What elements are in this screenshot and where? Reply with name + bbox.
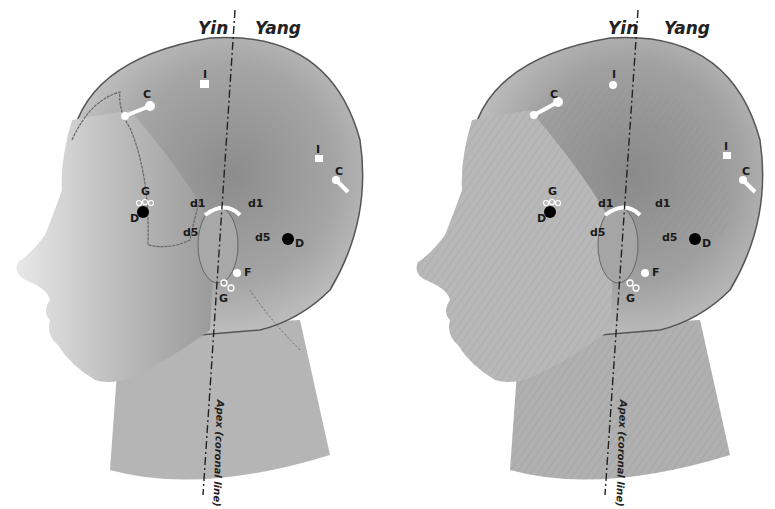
- point-D-back-label: D: [702, 237, 711, 250]
- point-C-back-label: C: [335, 165, 343, 178]
- point-D-temple-label: D: [130, 212, 139, 225]
- point-F-label: F: [652, 266, 660, 279]
- yin-label: Yin: [198, 18, 228, 38]
- point-I-top-marker: [200, 80, 209, 88]
- yang-label: Yang: [255, 18, 301, 38]
- point-d5-front-label: d5: [590, 226, 606, 239]
- point-I-back-label: I: [316, 143, 320, 156]
- point-C-front-label: C: [143, 88, 151, 101]
- head-profile-muscle-panel: Yin Yang I C I C G D d1 d1 d5 d5 D F G A…: [400, 0, 775, 509]
- yin-label: Yin: [608, 18, 638, 38]
- yang-label: Yang: [664, 18, 710, 38]
- point-d5-back-label: d5: [255, 231, 271, 244]
- point-d1-front-label: d1: [598, 197, 614, 210]
- head-skin-illustration: [0, 0, 387, 509]
- point-G-neck-label: G: [219, 292, 228, 305]
- point-D-temple-label: D: [537, 212, 546, 225]
- head-profile-skin-panel: Yin Yang I C I C G D d1 d1 d5 d5 D F G A…: [0, 0, 387, 509]
- point-d5-back-label: d5: [662, 231, 678, 244]
- point-d1-back-label: d1: [248, 197, 264, 210]
- head-muscle-illustration: [400, 0, 775, 509]
- point-C-back-label: C: [742, 165, 750, 178]
- point-I-back-label: I: [724, 140, 728, 153]
- point-d5-front-label: d5: [183, 226, 199, 239]
- point-G-temple-label: G: [141, 185, 150, 198]
- point-D-back-label: D: [295, 237, 304, 250]
- point-G-neck-label: G: [626, 292, 635, 305]
- point-d1-back-label: d1: [655, 197, 671, 210]
- point-F-label: F: [244, 266, 252, 279]
- point-I-top-label: I: [203, 68, 207, 81]
- point-d1-front-label: d1: [190, 197, 206, 210]
- point-C-front-label: C: [550, 88, 558, 101]
- point-I-top-label: I: [612, 68, 616, 81]
- point-G-temple-label: G: [548, 185, 557, 198]
